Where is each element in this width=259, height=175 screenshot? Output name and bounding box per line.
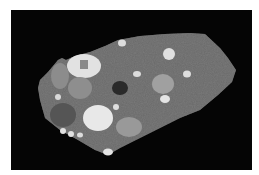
inclusion-small-4 [160,95,170,103]
inclusion-bottom-grey [116,117,142,137]
inclusion-top-white [163,48,175,60]
inclusion-left-mid [51,63,69,89]
inclusion-small-10 [77,133,83,138]
inclusion-darkest [112,81,128,95]
stone-image [0,0,259,175]
inclusion-small-7 [60,128,66,134]
inclusion-white-large [83,105,113,131]
inclusion-small-3 [183,71,191,78]
inclusion-dark [50,103,76,127]
inclusion-small-5 [55,94,61,100]
inclusion-mid-grey [68,77,92,99]
inclusion-small-8 [68,131,74,137]
inclusion-core [80,60,88,69]
stone-body [38,33,236,155]
inclusion-small-6 [103,149,113,156]
inclusion-right-grey [152,74,174,94]
inclusion-small-1 [118,40,126,47]
inclusion-small-9 [113,104,119,110]
inclusion-small-2 [133,71,141,77]
